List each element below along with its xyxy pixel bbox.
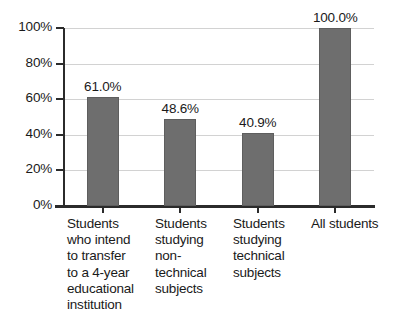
x-axis-tick xyxy=(102,207,104,213)
bar-value-label: 61.0% xyxy=(63,79,143,94)
bar xyxy=(242,133,274,206)
bar-value-label: 48.6% xyxy=(140,101,220,116)
y-axis-tick-label: 20% xyxy=(2,161,52,176)
y-axis-tick-label: 0% xyxy=(2,197,52,212)
x-axis-tick xyxy=(179,207,181,213)
bar xyxy=(319,28,351,206)
y-axis-line xyxy=(63,28,65,207)
faint-title-artifact xyxy=(112,4,302,18)
x-axis-category-label: All students xyxy=(311,216,401,232)
bar xyxy=(87,97,119,206)
y-axis-tick-label: 60% xyxy=(2,90,52,105)
bar-value-label: 100.0% xyxy=(295,10,375,25)
y-axis-tick-label: 100% xyxy=(2,19,52,34)
x-axis-category-label: Studentswho intendto transferto a 4-year… xyxy=(67,216,149,313)
bar-value-label: 40.9% xyxy=(218,115,298,130)
bar xyxy=(164,119,196,206)
y-axis-tick-label: 40% xyxy=(2,126,52,141)
x-axis-tick xyxy=(257,207,259,213)
bar-chart: 0%20%40%60%80%100% 61.0%48.6%40.9%100.0%… xyxy=(0,0,403,325)
y-axis-tick-label: 80% xyxy=(2,55,52,70)
x-axis-category-label: Studentsstudyingnon-technicalsubjects xyxy=(155,216,229,297)
x-axis-tick xyxy=(334,207,336,213)
x-axis-category-label: Studentsstudyingtechnicalsubjects xyxy=(233,216,305,281)
